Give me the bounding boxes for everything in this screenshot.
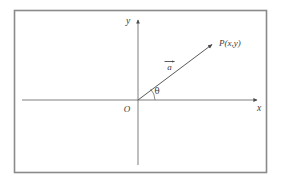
figure-canvas: y x O θ a P(x,y) xyxy=(0,0,281,183)
vector-a-label: a xyxy=(167,62,172,72)
y-axis-label: y xyxy=(125,16,131,26)
coordinate-plane-diagram: y x O θ a P(x,y) xyxy=(0,0,281,183)
figure-border xyxy=(15,11,267,173)
x-axis-label: x xyxy=(256,103,262,113)
theta-angle-label: θ xyxy=(154,86,159,96)
point-p-label: P(x,y) xyxy=(218,38,241,48)
origin-label: O xyxy=(124,104,131,114)
